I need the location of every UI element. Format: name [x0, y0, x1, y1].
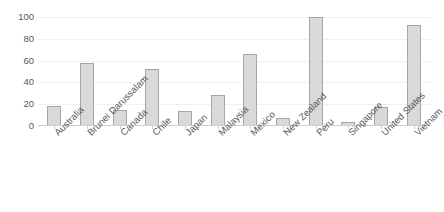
x-label-slot: Canada: [103, 128, 136, 212]
x-label-slot: Vietnam: [397, 128, 430, 212]
x-label-slot: New Zealand: [267, 128, 300, 212]
x-label-slot: Singapore: [332, 128, 365, 212]
x-axis-labels: AustraliaBrunei DarussalamCanadaChileJap…: [38, 128, 430, 212]
y-axis: 020406080100: [0, 17, 34, 126]
x-label-slot: Brunei Darussalam: [71, 128, 104, 212]
x-label-slot: Chile: [136, 128, 169, 212]
x-label-slot: United States: [365, 128, 398, 212]
bar-slot: [201, 17, 234, 126]
x-label-slot: Australia: [38, 128, 71, 212]
bar-slot: [267, 17, 300, 126]
x-label-slot: Mexico: [234, 128, 267, 212]
bar-slot: [332, 17, 365, 126]
y-axis-tick-label: 0: [2, 121, 34, 131]
x-label-slot: Japan: [169, 128, 202, 212]
bar[interactable]: [211, 95, 225, 126]
bar-slot: [169, 17, 202, 126]
x-label-slot: Peru: [299, 128, 332, 212]
x-label-slot: Malaysia: [201, 128, 234, 212]
y-axis-tick-label: 80: [2, 34, 34, 44]
bar[interactable]: [80, 63, 94, 126]
y-axis-tick-label: 60: [2, 56, 34, 66]
y-axis-tick-label: 20: [2, 99, 34, 109]
y-axis-tick-label: 100: [2, 12, 34, 22]
bar-slot: [38, 17, 71, 126]
y-axis-tick-label: 40: [2, 77, 34, 87]
